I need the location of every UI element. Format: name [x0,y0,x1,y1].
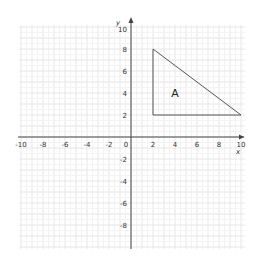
x-tick-label: 2 [151,141,155,149]
x-tick-label: 0 [124,141,128,149]
coordinate-grid: -10-8-6-4-20246810108642-2-4-6-8 x y A [0,0,262,258]
y-axis-arrow-icon [129,17,134,23]
y-tick-label: 8 [123,46,127,54]
y-tick-label: 4 [123,90,128,98]
y-tick-label: -8 [120,222,127,230]
y-tick-label: 10 [118,26,127,34]
y-tick-label: 2 [123,112,127,120]
x-tick-label: -10 [15,141,26,149]
tick-labels: -10-8-6-4-20246810108642-2-4-6-8 [15,26,245,230]
shape-label: A [171,87,179,100]
x-tick-label: -2 [106,141,113,149]
x-tick-label: 8 [217,141,221,149]
y-tick-label: -4 [120,178,128,186]
x-tick-label: 6 [195,141,200,149]
x-axis-label: x [235,148,241,156]
x-tick-label: -8 [40,141,47,149]
x-tick-label: -4 [84,141,92,149]
y-tick-label: -2 [120,156,127,164]
x-tick-label: 4 [173,141,178,149]
y-tick-label: -6 [120,200,128,208]
y-axis-label: y [115,19,121,27]
x-tick-label: -6 [62,141,70,149]
y-tick-label: 6 [123,68,128,76]
